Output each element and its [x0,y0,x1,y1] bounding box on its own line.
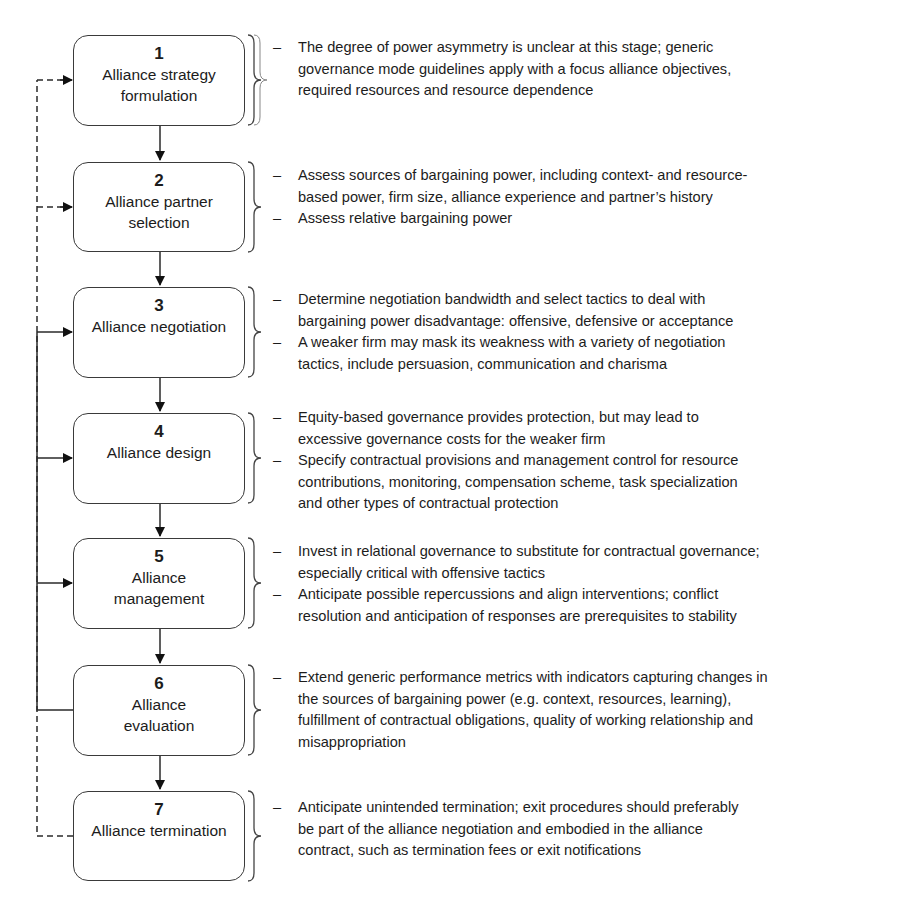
stage-notes-3: – Determine negotiation bandwidth and se… [273,289,893,375]
note-item: – Determine negotiation bandwidth and se… [273,289,893,332]
stage-box-1: 1 Alliance strategy formulation [73,35,245,126]
stage-number: 6 [154,674,163,694]
stage-notes-6: – Extend generic performance metrics wit… [273,667,893,753]
stage-notes-2: – Assess sources of bargaining power, in… [273,165,893,230]
stage-box-3: 3 Alliance negotiation [73,287,245,378]
stage-notes-4: – Equity-based governance provides prote… [273,407,893,515]
stage-label: formulation [121,85,198,106]
stage-box-2: 2 Alliance partner selection [73,162,245,252]
note-item: – Anticipate possible repercussions and … [273,584,893,627]
stage-number: 4 [154,422,163,442]
note-item: – A weaker firm may mask its weakness wi… [273,332,893,375]
stage-number: 2 [154,171,163,191]
feedback-solid-line [37,332,73,710]
stage-box-7: 7 Alliance termination [73,791,245,881]
stage-box-6: 6 Alliance evaluation [73,665,245,756]
stage-number: 3 [154,296,163,316]
stage-label: Alliance termination [91,820,226,841]
stage-label: management [114,588,204,609]
note-item: – Assess relative bargaining power [273,208,893,230]
stage-label: selection [128,212,189,233]
stage-box-5: 5 Alliance management [73,538,245,629]
note-item: – Extend generic performance metrics wit… [273,667,893,753]
note-item: – Assess sources of bargaining power, in… [273,165,893,208]
stage-number: 7 [154,800,163,820]
stage-label: Alliance [132,567,186,588]
stage-notes-7: – Anticipate unintended termination; exi… [273,797,893,862]
stage-box-4: 4 Alliance design [73,413,245,504]
note-item: – Invest in relational governance to sub… [273,541,893,584]
stage-label: Alliance partner [105,191,213,212]
note-item: – Specify contractual provisions and man… [273,450,893,515]
stage-label: evaluation [124,715,195,736]
stage-number: 1 [154,44,163,64]
stage-label: Alliance design [107,442,211,463]
stage-label: Alliance negotiation [92,316,226,337]
note-item: – Anticipate unintended termination; exi… [273,797,893,862]
note-item: – The degree of power asymmetry is uncle… [273,37,893,102]
stage-number: 5 [154,547,163,567]
stage-notes-1: – The degree of power asymmetry is uncle… [273,37,893,102]
stage-label: Alliance [132,694,186,715]
note-item: – Equity-based governance provides prote… [273,407,893,450]
stage-notes-5: – Invest in relational governance to sub… [273,541,893,627]
stage-label: Alliance strategy [102,64,216,85]
